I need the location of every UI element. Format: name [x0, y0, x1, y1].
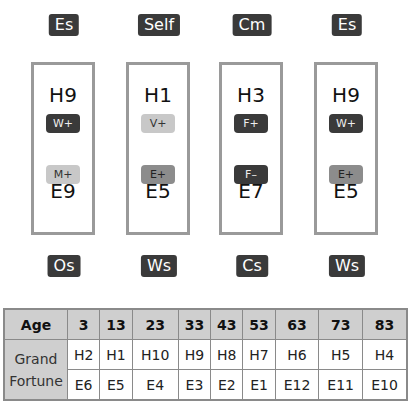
house-cell: H6: [275, 340, 319, 370]
age-cell: 53: [243, 309, 275, 340]
age-cell: 83: [362, 309, 407, 340]
earth-cell: E10: [362, 370, 407, 401]
top-pill: W+: [46, 114, 80, 133]
house-value: H9: [317, 83, 375, 107]
pillar-box-col1: H9 W+ M+ E9: [31, 62, 95, 235]
earth-cell: E4: [132, 370, 178, 401]
house-cell: H1: [100, 340, 132, 370]
earth-value: E7: [222, 179, 280, 203]
top-pill: W+: [329, 114, 363, 133]
earth-cell: E12: [275, 370, 319, 401]
house-cell: H10: [132, 340, 178, 370]
earth-value: E5: [317, 179, 375, 203]
top-label-col4: Es: [332, 14, 362, 36]
top-label-col2: Self: [138, 14, 180, 36]
pillar-box-col3: H3 F+ F– E7: [219, 62, 283, 235]
earth-cell: E3: [178, 370, 210, 401]
earth-value: E9: [34, 179, 92, 203]
house-value: H1: [129, 83, 187, 107]
earth-cell: E2: [211, 370, 243, 401]
bottom-label-col1: Os: [48, 255, 81, 277]
top-pill: V+: [141, 114, 175, 133]
age-cell: 13: [100, 309, 132, 340]
grand-fortune-table: Age 3 13 23 33 43 53 63 73 83 Grand Fort…: [3, 308, 408, 401]
house-cell: H2: [68, 340, 100, 370]
house-value: H9: [34, 83, 92, 107]
pillar-box-col4: H9 W+ E+ E5: [314, 62, 378, 235]
earth-cell: E6: [68, 370, 100, 401]
bottom-label-col4: Ws: [329, 255, 365, 277]
age-cell: 23: [132, 309, 178, 340]
age-header: Age: [4, 309, 68, 340]
house-cell: H9: [178, 340, 210, 370]
house-value: H3: [222, 83, 280, 107]
age-cell: 63: [275, 309, 319, 340]
age-cell: 3: [68, 309, 100, 340]
row-label-line2: Fortune: [9, 373, 63, 389]
age-cell: 43: [211, 309, 243, 340]
age-cell: 73: [319, 309, 363, 340]
age-row: Age 3 13 23 33 43 53 63 73 83: [4, 309, 407, 340]
earth-value: E5: [129, 179, 187, 203]
pillar-box-col2: H1 V+ E+ E5: [126, 62, 190, 235]
age-cell: 33: [178, 309, 210, 340]
house-cell: H4: [362, 340, 407, 370]
grand-fortune-label: Grand Fortune: [4, 340, 68, 401]
earth-cell: E5: [100, 370, 132, 401]
house-row: Grand Fortune H2 H1 H10 H9 H8 H7 H6 H5 H…: [4, 340, 407, 370]
house-cell: H5: [319, 340, 363, 370]
bottom-label-col3: Cs: [236, 255, 268, 277]
top-pill: F+: [234, 114, 268, 133]
house-cell: H8: [211, 340, 243, 370]
earth-cell: E11: [319, 370, 363, 401]
top-label-col1: Es: [49, 14, 79, 36]
earth-cell: E1: [243, 370, 275, 401]
row-label-line1: Grand: [15, 351, 58, 367]
bottom-label-col2: Ws: [141, 255, 177, 277]
top-label-col3: Cm: [233, 14, 272, 36]
house-cell: H7: [243, 340, 275, 370]
